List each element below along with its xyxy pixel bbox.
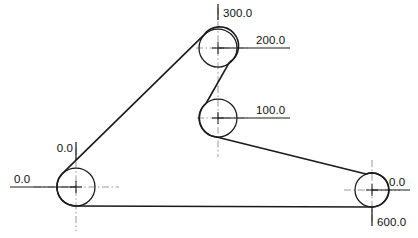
- dimension-labels-group: 300.0 200.0 100.0 0.0 0.0 0.0 600.0: [14, 7, 406, 228]
- technical-drawing-canvas: 300.0 200.0 100.0 0.0 0.0 0.0 600.0: [0, 0, 418, 238]
- belt-path-group: [57, 27, 389, 207]
- dim-label-left-pulley-vertical: 0.0: [57, 142, 73, 154]
- belt-wrap-middle-pulley: [199, 104, 215, 137]
- belt-wrap-left-pulley: [57, 174, 76, 206]
- center-marks-group: [70, 42, 378, 196]
- belt-wrap-top-pulley: [204, 27, 238, 62]
- belt-span-bottom: [76, 206, 372, 207]
- belt-span-left-to-top: [62, 35, 204, 174]
- dimension-leaders-group: [10, 4, 410, 226]
- dim-label-left-pulley-horizontal: 0.0: [14, 173, 30, 185]
- dim-label-middle-pulley-horizontal: 100.0: [256, 104, 285, 116]
- dim-label-top-pulley-vertical: 300.0: [223, 7, 252, 19]
- dim-label-top-pulley-horizontal: 200.0: [256, 34, 285, 46]
- centerlines-group: [34, 8, 400, 231]
- dim-label-right-pulley-horizontal: 0.0: [389, 176, 405, 188]
- belt-span-middle-to-right: [216, 137, 367, 174]
- pulley-belt-diagram: 300.0 200.0 100.0 0.0 0.0 0.0 600.0: [0, 0, 418, 238]
- dim-label-right-pulley-vertical: 600.0: [377, 216, 406, 228]
